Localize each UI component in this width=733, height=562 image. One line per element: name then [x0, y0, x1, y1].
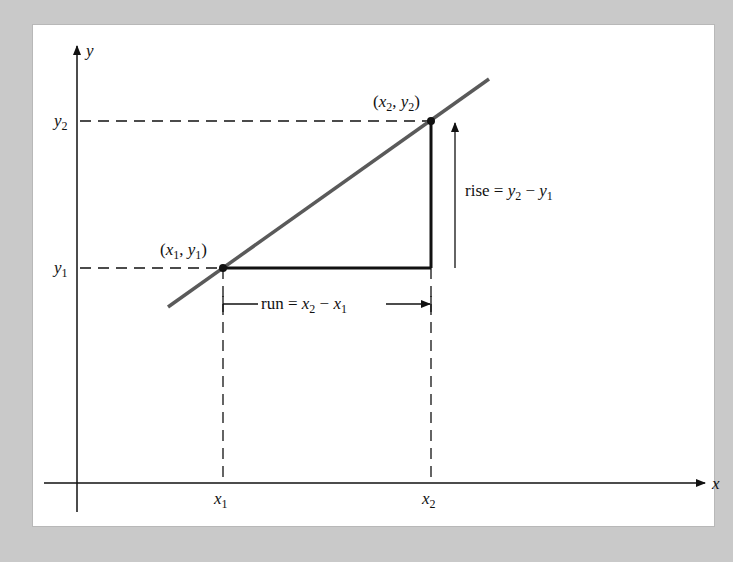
x1-tick-label: x1	[213, 489, 228, 511]
run-formula: run = x2 − x1	[261, 294, 347, 316]
dashed-guides	[80, 121, 431, 483]
x2-tick-label: x2	[421, 489, 436, 511]
point-1	[219, 264, 227, 272]
point-2	[427, 117, 435, 125]
point-2-label: (x2, y2)	[373, 92, 420, 114]
y2-tick-label: y2	[52, 111, 68, 133]
rise-formula: rise = y2 − y1	[465, 181, 553, 203]
x-axis-label: x	[711, 474, 720, 493]
secant-line	[168, 79, 489, 307]
y1-tick-label: y1	[52, 258, 68, 280]
y-axis-label: y	[84, 41, 94, 60]
slope-diagram: y x (x1, y1) (x2, y2) y2 y1 x1 x2 rise =…	[0, 0, 733, 562]
point-1-label: (x1, y1)	[160, 240, 207, 262]
